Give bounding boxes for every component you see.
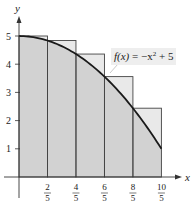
x-tick-numerator: 2 [45, 182, 50, 192]
function-label-rest: + 5 [156, 50, 174, 62]
x-tick-denominator: 5 [102, 193, 107, 203]
x-tick-denominator: 5 [74, 193, 79, 203]
function-label-eq: = −x [129, 50, 153, 62]
x-tick-numerator: 6 [102, 182, 107, 192]
x-ticks: 25456585105 [44, 182, 166, 203]
x-tick-numerator: 10 [157, 182, 167, 192]
y-tick-label: 2 [6, 115, 11, 126]
y-tick-label: 4 [6, 59, 11, 70]
x-tick-denominator: 5 [131, 193, 136, 203]
x-tick-denominator: 5 [159, 193, 164, 203]
riemann-sum-chart: x y 12345 25456585105 f(x) = −x2 + 5 [0, 0, 193, 208]
x-tick-numerator: 8 [131, 182, 136, 192]
x-axis-label: x [184, 171, 190, 183]
y-axis-label: y [14, 2, 20, 14]
x-tick-denominator: 5 [45, 193, 50, 203]
function-label: f(x) = −x2 + 5 [114, 50, 174, 63]
y-tick-label: 5 [6, 31, 11, 42]
y-tick-label: 1 [6, 143, 11, 154]
label-pointer [110, 64, 118, 73]
y-axis-arrow-icon [17, 16, 22, 23]
x-axis-arrow-icon [175, 175, 182, 180]
y-ticks: 12345 [6, 31, 20, 155]
function-label-fx: f(x) [114, 50, 130, 63]
x-tick-numerator: 4 [74, 182, 79, 192]
y-tick-label: 3 [6, 87, 11, 98]
